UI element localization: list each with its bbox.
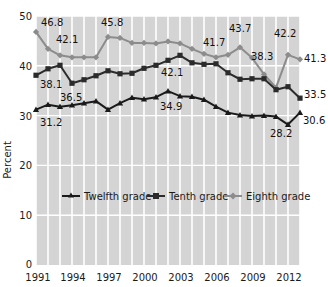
data-point — [225, 70, 230, 75]
data-point — [129, 71, 134, 76]
y-tick-0: 0 — [26, 259, 32, 270]
data-label-38-3: 38.3 — [251, 51, 273, 62]
y-tick-50: 50 — [19, 11, 32, 22]
data-point — [165, 58, 170, 63]
x-tick-2009: 2009 — [240, 272, 265, 283]
x-axis: 1991 1994 1997 2000 2003 2006 2009 2012 — [25, 272, 301, 283]
y-axis: 50 40 30 20 10 0 — [19, 11, 32, 270]
data-label-38-1: 38.1 — [40, 79, 62, 90]
data-label-42-1-mid: 42.1 — [161, 67, 183, 78]
data-label-41-7: 41.7 — [203, 37, 225, 48]
data-point — [285, 84, 290, 89]
data-point — [69, 81, 74, 86]
data-point — [153, 63, 158, 68]
data-point — [273, 87, 278, 92]
data-label-41-3: 41.3 — [304, 53, 326, 64]
x-tick-2003: 2003 — [168, 272, 193, 283]
x-tick-1994: 1994 — [60, 272, 85, 283]
data-point — [237, 77, 242, 82]
line-chart: 50 40 30 20 10 0 Percent 1991 1994 1997 … — [0, 0, 328, 287]
data-label-31-2: 31.2 — [40, 117, 62, 128]
legend-label-tenth-grade: Tenth grade — [168, 191, 228, 202]
data-label-43-7: 43.7 — [229, 23, 251, 34]
y-tick-20: 20 — [19, 160, 32, 171]
data-point — [57, 63, 62, 68]
data-label-34-9: 34.9 — [160, 101, 182, 112]
data-label-46-8: 46.8 — [41, 17, 63, 28]
data-label-36-5: 36.5 — [60, 92, 82, 103]
data-point — [213, 61, 218, 66]
data-point — [261, 76, 266, 81]
data-point — [201, 62, 206, 67]
chart-legend: Twelfth grade Tenth grade Eighth grade — [62, 191, 310, 202]
x-tick-2000: 2000 — [132, 272, 157, 283]
legend-label-twelfth-grade: Twelfth grade — [83, 191, 151, 202]
x-tick-1997: 1997 — [96, 272, 121, 283]
x-tick-2006: 2006 — [204, 272, 229, 283]
data-label-30-6: 30.6 — [303, 115, 325, 126]
data-label-33-5: 33.5 — [304, 89, 326, 100]
y-axis-title: Percent — [2, 141, 13, 179]
y-tick-30: 30 — [19, 111, 32, 122]
data-label-42-2: 42.2 — [274, 28, 296, 39]
data-point — [93, 73, 98, 78]
data-point — [297, 96, 302, 101]
data-point — [81, 77, 86, 82]
y-tick-40: 40 — [19, 61, 32, 72]
x-tick-2012: 2012 — [276, 272, 301, 283]
data-point — [105, 68, 110, 73]
data-point — [117, 71, 122, 76]
data-label-28-2: 28.2 — [270, 128, 292, 139]
data-point — [141, 66, 146, 71]
data-label-45-8: 45.8 — [101, 17, 123, 28]
data-point — [177, 53, 182, 58]
chart-container: 50 40 30 20 10 0 Percent 1991 1994 1997 … — [0, 0, 328, 287]
data-label-42-1-top: 42.1 — [56, 34, 78, 45]
data-point — [45, 66, 50, 71]
data-point — [249, 76, 254, 81]
legend-label-eighth-grade: Eighth grade — [246, 191, 310, 202]
data-point — [33, 73, 38, 78]
data-point — [189, 60, 194, 65]
y-tick-10: 10 — [19, 210, 32, 221]
square-marker-icon — [153, 193, 159, 199]
x-tick-1991: 1991 — [25, 272, 50, 283]
